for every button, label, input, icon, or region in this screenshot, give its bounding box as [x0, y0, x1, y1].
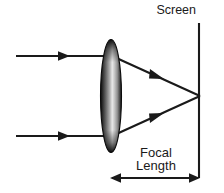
- screen-label: Screen: [156, 3, 196, 17]
- focal-length-label-line2: Length: [136, 158, 176, 173]
- ray-diagram-canvas: Screen Focal Length: [0, 0, 224, 193]
- optics-diagram: Screen Focal Length: [0, 0, 224, 193]
- converging-lens: [101, 40, 122, 153]
